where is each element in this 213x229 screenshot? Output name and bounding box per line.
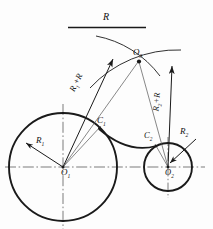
node-c2 [155, 145, 158, 148]
node-o3 [137, 59, 141, 63]
dimension-line-r2-plus-r [168, 66, 172, 167]
label-center-o1: O1 [61, 168, 70, 179]
ray-o1-to-c1 [63, 126, 101, 167]
ray-o2-to-o3 [139, 62, 168, 167]
radius-arrow-r1 [26, 143, 63, 167]
label-center-o2: O2 [165, 168, 174, 179]
label-radius-r1: R1 [36, 136, 44, 147]
label-radius-r2: R2 [180, 127, 188, 138]
label-tangent-c1: C1 [97, 116, 106, 127]
drawing-svg [0, 0, 213, 229]
label-construction-r2-plus-r: R2+R [152, 92, 164, 111]
construction-arc-r1-plus-r [96, 36, 160, 76]
label-center-o3: O3 [133, 48, 142, 59]
node-c1 [98, 127, 101, 130]
technical-drawing-canvas: R R1 R2 O1 O2 O3 C1 C2 R1+R R2+R [0, 0, 213, 229]
label-tangent-c2: C2 [144, 131, 152, 142]
label-arc-r: R [103, 12, 109, 22]
radius-arrow-r2 [170, 139, 196, 163]
ray-o2-to-c2 [155, 144, 168, 167]
